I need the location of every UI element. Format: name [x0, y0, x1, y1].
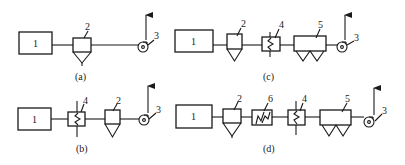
heat-exchanger-icon	[262, 32, 280, 57]
fan-label: 3	[354, 32, 359, 43]
fan-icon	[364, 117, 374, 127]
cyclone-label: 2	[237, 93, 242, 104]
caption-a: (a)	[75, 71, 86, 83]
furnace-label: 1	[32, 114, 37, 125]
heat-exchanger-label: 4	[83, 95, 88, 106]
panel-d: 1 2 6 4 5	[176, 88, 387, 155]
spark-arrester-icon	[252, 110, 272, 125]
spark-arrester-label: 6	[268, 93, 273, 104]
caption-c: (c)	[263, 71, 274, 83]
cyclone-icon	[105, 110, 120, 137]
furnace-label: 1	[191, 36, 196, 47]
bag-filter-icon	[294, 36, 326, 61]
bag-filter-label: 5	[345, 93, 350, 104]
caption-b: (b)	[76, 143, 88, 155]
fan-label: 3	[382, 105, 387, 116]
heat-exchanger-icon	[68, 101, 85, 137]
cyclone-label: 2	[116, 95, 121, 106]
bag-filter-icon	[320, 110, 351, 136]
cyclone-label: 2	[241, 18, 246, 29]
heat-exchanger-icon	[288, 101, 305, 135]
fan-label: 3	[154, 30, 159, 41]
dust-removal-diagram: 1 2 3 (a) 1 2	[0, 0, 405, 165]
cyclone-icon	[227, 34, 242, 61]
panel-a: 1 2 3 (a)	[19, 15, 159, 83]
heat-exchanger-label: 4	[279, 19, 284, 30]
cyclone-label: 2	[85, 21, 90, 32]
furnace-label: 1	[33, 38, 38, 49]
furnace-label: 1	[191, 111, 196, 122]
bag-filter-label: 5	[318, 19, 323, 30]
fan-icon	[139, 115, 149, 125]
cyclone-icon	[223, 109, 241, 138]
fan-icon	[138, 42, 148, 52]
panel-c: 1 2 4 5 3 (c)	[175, 15, 359, 83]
panel-b: 1 4 2 3 (b)	[18, 86, 161, 155]
fan-icon	[337, 42, 347, 52]
fan-label: 3	[156, 104, 161, 115]
cyclone-icon	[73, 38, 91, 66]
caption-d: (d)	[263, 143, 275, 155]
heat-exchanger-label: 4	[302, 93, 307, 104]
